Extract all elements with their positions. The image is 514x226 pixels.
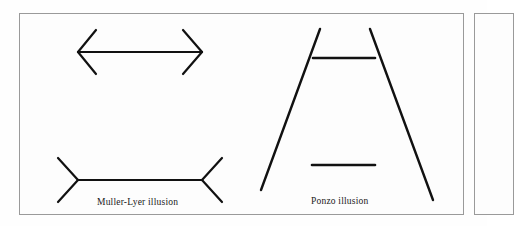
caption-ponzo: Ponzo illusion xyxy=(311,196,368,206)
caption-muller-lyer: Muller-Lyer illusion xyxy=(97,197,178,207)
adjacent-figure-box-partial xyxy=(474,13,514,215)
figure-border-box xyxy=(19,13,464,215)
